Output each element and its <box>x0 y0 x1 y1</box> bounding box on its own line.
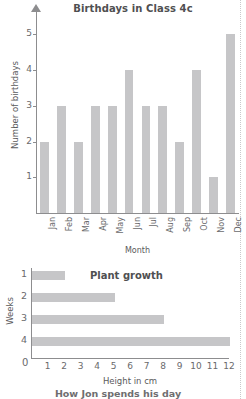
bar <box>32 293 115 302</box>
x-tick-label: Apr <box>99 217 108 231</box>
bar <box>142 106 151 213</box>
plot-area <box>36 13 239 213</box>
y-tick-label: 4 <box>16 64 32 74</box>
x-tick-label: 12 <box>222 361 236 371</box>
x-tick-label: 4 <box>90 361 104 371</box>
x-tick-label: 10 <box>189 361 203 371</box>
y-tick-label: 2 <box>14 290 27 301</box>
x-tick-label: 11 <box>206 361 220 371</box>
bar <box>32 271 65 280</box>
x-tick-label: 8 <box>156 361 170 371</box>
x-tick-label: Sep <box>183 217 192 232</box>
y-tick-label: 1 <box>16 171 32 181</box>
x-tick-label: 7 <box>140 361 154 371</box>
bar <box>40 142 49 213</box>
origin-tick-label: 0 <box>22 357 28 368</box>
y-tick-label: 5 <box>16 28 32 38</box>
y-tick-label: 3 <box>16 100 32 110</box>
chart-title: Plant growth <box>90 270 210 281</box>
chart-birthdays-in-class-4c: Birthdays in Class 4c Number of birthday… <box>0 0 246 258</box>
y-tick-label: 1 <box>14 268 27 279</box>
next-section-caption: How Jon spends his day <box>0 388 236 399</box>
bar <box>32 337 230 346</box>
bar <box>32 315 164 324</box>
x-tick-label: 2 <box>57 361 71 371</box>
x-tick-label: Jul <box>149 217 158 227</box>
x-tick-label: Dec <box>234 217 243 232</box>
x-tick-label: Jun <box>133 217 142 230</box>
x-tick-label: Mar <box>82 217 91 232</box>
chart-plant-growth: Plant growth Weeks Height in cm 0 1234 1… <box>0 258 246 378</box>
x-axis-label: Height in cm <box>31 376 229 386</box>
bar <box>125 70 134 213</box>
x-tick-label: 6 <box>123 361 137 371</box>
y-tick-label: 3 <box>14 312 27 323</box>
bar <box>192 70 201 213</box>
x-tick-label: Nov <box>217 217 226 233</box>
x-tick-label: Jan <box>48 217 57 229</box>
bar <box>57 106 66 213</box>
bar <box>108 106 117 213</box>
x-tick-label: May <box>116 217 125 234</box>
bar <box>226 34 235 213</box>
bar <box>74 142 83 213</box>
bar <box>175 142 184 213</box>
y-tick-label: 2 <box>16 136 32 146</box>
x-tick-label: 5 <box>107 361 121 371</box>
bar <box>158 106 167 213</box>
bar <box>91 106 100 213</box>
x-tick-label: 3 <box>74 361 88 371</box>
x-tick-label: Feb <box>65 217 74 231</box>
x-axis-line <box>36 213 239 214</box>
x-tick-label: Aug <box>166 217 175 233</box>
x-axis-line <box>31 358 229 359</box>
x-axis-label: Month <box>36 246 239 255</box>
y-axis-arrow-icon <box>31 4 41 12</box>
y-tick-label: 4 <box>14 334 27 345</box>
x-tick-label: 1 <box>41 361 55 371</box>
x-tick-label: 9 <box>173 361 187 371</box>
x-tick-label: Oct <box>200 217 209 231</box>
bar <box>209 177 218 213</box>
